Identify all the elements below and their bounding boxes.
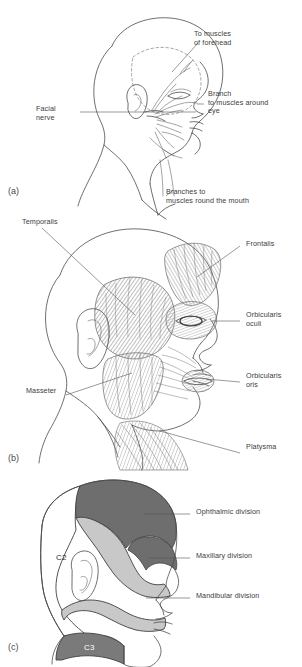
label-frontalis: Frontalis bbox=[246, 240, 274, 249]
muscle-masseter-shape bbox=[103, 353, 163, 419]
muscle-platysma-shape bbox=[115, 421, 188, 470]
label-to-muscles-of-forehead: To muscles of forehead bbox=[194, 30, 231, 47]
anatomy-figure: (a) To muscles of forehead Branch to mus… bbox=[0, 0, 302, 667]
panel-c-letter: (c) bbox=[8, 642, 19, 652]
region-label-c2: C2 bbox=[56, 554, 66, 563]
region-label-c3: C3 bbox=[84, 644, 94, 653]
panel-b-drawing bbox=[0, 215, 302, 470]
panel-b-facial-muscles: (b) Temporalis Frontalis Orbicularis ocu… bbox=[0, 215, 302, 470]
label-branch-to-muscles-around-eye: Branch to muscles around eye bbox=[208, 90, 268, 116]
panel-c-drawing bbox=[0, 470, 302, 667]
label-ophthalmic-division: Ophthalmic division bbox=[196, 508, 260, 517]
panel-c-trigeminal-dermatomes: (c) Ophthalmic division Maxillary divisi… bbox=[0, 470, 302, 667]
muscle-orbicularis-oris-shape bbox=[182, 370, 214, 392]
label-temporalis: Temporalis bbox=[22, 218, 58, 227]
label-facial-nerve: Facial nerve bbox=[36, 105, 56, 122]
label-orbicularis-oris: Orbicularis oris bbox=[246, 372, 281, 389]
panel-a-letter: (a) bbox=[8, 186, 19, 196]
label-maxillary-division: Maxillary division bbox=[196, 552, 252, 561]
panel-b-letter: (b) bbox=[8, 453, 19, 463]
label-branches-to-muscles-round-the-mouth: Branches to muscles round the mouth bbox=[166, 188, 249, 205]
muscle-orbicularis-oculi-shape bbox=[166, 302, 217, 340]
label-mandibular-division: Mandibular division bbox=[196, 592, 259, 601]
label-masseter: Masseter bbox=[26, 387, 56, 396]
label-platysma: Platysma bbox=[246, 443, 276, 452]
panel-a-facial-nerve: (a) To muscles of forehead Branch to mus… bbox=[0, 0, 302, 222]
label-orbicularis-oculi: Orbicularis oculi bbox=[246, 311, 281, 328]
